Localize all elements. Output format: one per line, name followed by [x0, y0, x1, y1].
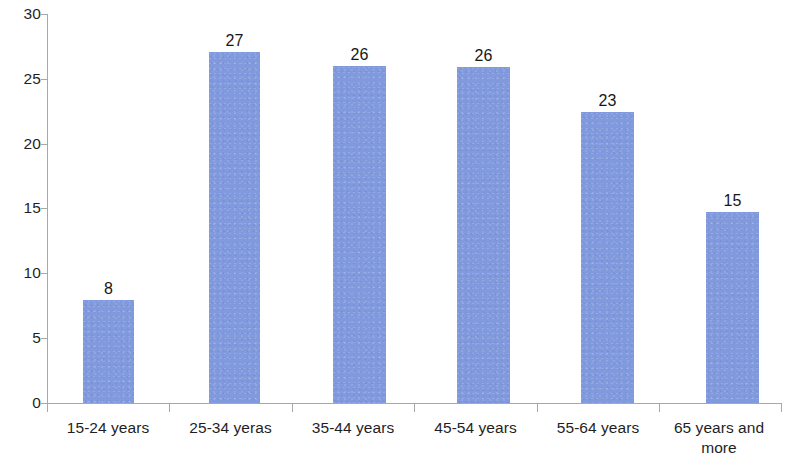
y-tick-label: 5: [7, 330, 41, 346]
x-tick-label: 45-54 years: [414, 418, 537, 438]
bar[interactable]: [83, 300, 134, 403]
bar-value-label: 27: [209, 33, 260, 49]
bar[interactable]: [457, 67, 510, 403]
x-tick-mark: [537, 404, 538, 412]
x-tick-mark: [169, 404, 170, 412]
x-tick-mark: [659, 404, 660, 412]
x-tick-mark: [292, 404, 293, 412]
y-tick-label: 25: [7, 71, 41, 87]
x-tick-label: 35-44 years: [292, 418, 414, 438]
y-tick-label: 10: [7, 265, 41, 281]
y-tick-mark: [41, 208, 48, 209]
bar-value-label: 8: [83, 281, 134, 297]
y-tick-label: 30: [7, 6, 41, 22]
x-tick-label: 15-24 years: [47, 418, 169, 438]
y-tick-label: 20: [7, 136, 41, 152]
y-tick-mark: [41, 79, 48, 80]
y-axis-line: [47, 14, 48, 404]
y-tick-label: 0: [7, 395, 41, 411]
y-tick-mark: [41, 144, 48, 145]
bar-value-label: 15: [706, 193, 759, 209]
x-tick-label: 25-34 yeras: [169, 418, 292, 438]
bar-value-label: 26: [457, 48, 510, 64]
bar[interactable]: [209, 52, 260, 403]
y-tick-label: 15: [7, 200, 41, 216]
bar[interactable]: [581, 112, 634, 403]
bar-value-label: 26: [333, 47, 386, 63]
bar[interactable]: [333, 66, 386, 403]
x-tick-mark: [47, 404, 48, 412]
y-tick-mark: [41, 338, 48, 339]
x-tick-mark: [781, 404, 782, 412]
y-tick-mark: [41, 273, 48, 274]
x-tick-mark: [414, 404, 415, 412]
x-tick-label: 55-64 years: [537, 418, 659, 438]
x-tick-label: 65 years and more: [664, 418, 774, 458]
bar-value-label: 23: [581, 93, 634, 109]
y-tick-mark: [41, 14, 48, 15]
bar[interactable]: [706, 212, 759, 403]
bar-chart: 30 25 20 15 10 5 0: [0, 0, 785, 472]
